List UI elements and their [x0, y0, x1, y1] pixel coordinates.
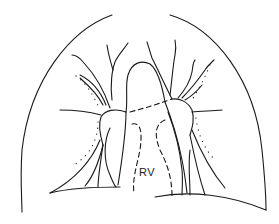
- right-upper-branch-4: [182, 60, 214, 98]
- right-upper-branch-2: [170, 40, 176, 95]
- right-dotted-margin-upper: [192, 65, 210, 100]
- diagram-canvas: RV: [0, 0, 279, 224]
- left-dotted-margin-lower: [74, 122, 98, 165]
- right-horizontal-vessel: [192, 110, 222, 112]
- right-hilum: [172, 99, 193, 135]
- right-hilar-vessel-5: [189, 150, 190, 195]
- right-diaphragm: [155, 194, 266, 210]
- chest-outline-drawing: [0, 0, 279, 224]
- right-hilar-vessel-4: [192, 130, 225, 188]
- left-hilar-vessel-2: [98, 145, 103, 187]
- right-hilar-vessel-2: [165, 102, 187, 193]
- left-heart-border: [118, 112, 126, 185]
- right-upper-branch-3: [178, 60, 195, 98]
- left-diaphragm: [50, 187, 120, 193]
- rv-label: RV: [139, 166, 155, 178]
- left-upper-branch-5: [80, 78, 103, 105]
- hilar-dashed-line: [130, 99, 172, 112]
- rv-right-dashed-border: [156, 120, 172, 196]
- rv-left-dashed-border: [132, 124, 141, 193]
- left-horizontal-vessel: [60, 110, 101, 115]
- left-upper-branch-4: [107, 45, 113, 70]
- left-hilar-vessel-3: [105, 128, 116, 187]
- left-dotted-margin-upper: [76, 76, 100, 110]
- right-upper-branch-1: [147, 42, 172, 99]
- right-dotted-margin-lower: [196, 118, 215, 160]
- right-thorax-border: [170, 15, 266, 210]
- left-hilum: [100, 110, 126, 145]
- left-upper-branch-3: [111, 43, 128, 100]
- aortic-arch: [126, 62, 165, 112]
- left-hilar-vessel-4: [50, 140, 100, 193]
